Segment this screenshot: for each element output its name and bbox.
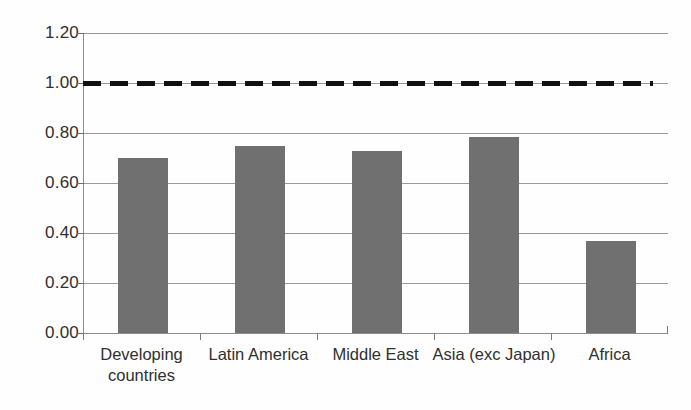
bar-asia-exc-japan (469, 137, 519, 333)
x-axis-end-tick (667, 326, 668, 334)
y-axis-tick-label: 0.20 (9, 273, 79, 293)
y-tick-mark (77, 183, 84, 184)
x-axis-category-label-asia-exc-japan: Asia (exc Japan) (430, 344, 558, 365)
y-axis-tick-label: 0.40 (9, 223, 79, 243)
y-tick-mark (77, 133, 84, 134)
y-tick-mark (77, 33, 84, 34)
x-axis-category-label-latin-america: Latin America (198, 344, 319, 365)
bar-developing-countries (118, 158, 168, 333)
y-axis-tick-label: 0.00 (9, 323, 79, 343)
bar-middle-east (352, 151, 402, 334)
y-axis-tick-label: 0.80 (9, 123, 79, 143)
y-tick-mark (77, 283, 84, 284)
bar-africa (586, 241, 636, 334)
y-tick-mark (77, 233, 84, 234)
x-tick-mark (200, 333, 201, 340)
gridline-0-80 (83, 133, 668, 134)
reference-line-dashed (83, 81, 653, 86)
x-tick-mark (434, 333, 435, 340)
x-axis-category-label-middle-east: Middle East (317, 344, 434, 365)
y-axis-tick-label: 1.20 (9, 23, 79, 43)
gridline-1-20 (83, 33, 668, 34)
x-tick-mark (83, 333, 84, 340)
bar-latin-america (235, 146, 285, 334)
y-axis-tick-label: 1.00 (9, 73, 79, 93)
y-axis-tick-label: 0.60 (9, 173, 79, 193)
x-tick-mark (317, 333, 318, 340)
plot-area (83, 33, 668, 333)
x-axis-category-label-africa: Africa (551, 344, 668, 365)
bar-chart: 1.20 1.00 0.80 0.60 0.40 0.20 0.00 (0, 0, 691, 410)
x-axis-category-label-developing-countries: Developing countries (83, 344, 200, 386)
x-tick-mark (551, 333, 552, 340)
x-axis-line (83, 333, 668, 334)
